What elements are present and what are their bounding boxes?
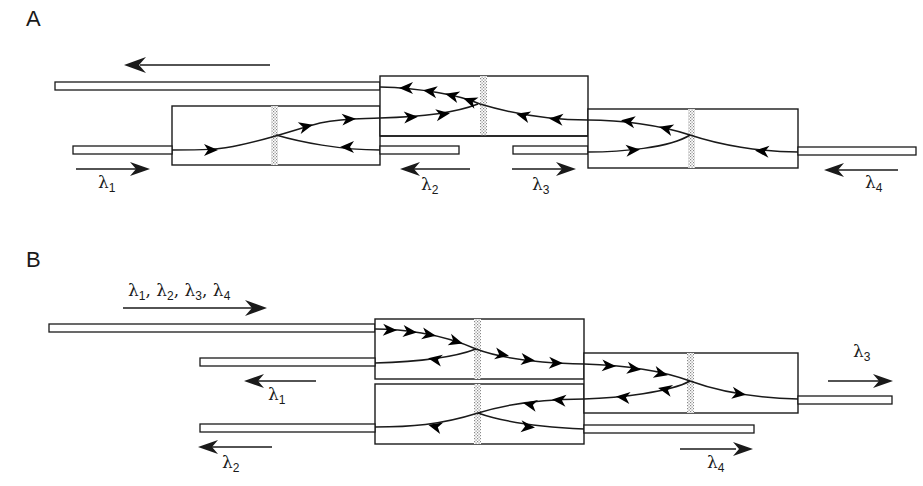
- output-fiber-l3: [798, 396, 892, 404]
- input-fiber-l4: [798, 147, 916, 155]
- label-a-lambda4: λ4: [865, 172, 882, 195]
- label-a-lambda1: λ1: [98, 172, 115, 195]
- grating-b3: [687, 353, 694, 413]
- output-fiber-l4: [584, 425, 754, 433]
- diagram-canvas: [0, 0, 923, 486]
- panel-label-b: B: [26, 247, 41, 273]
- input-fiber-l1: [73, 146, 172, 154]
- input-fiber-l3: [513, 146, 588, 154]
- panel-a: [55, 57, 916, 177]
- grating-3: [688, 109, 695, 168]
- panel-label-a: A: [26, 6, 41, 32]
- output-direction-arrow: [124, 57, 270, 73]
- label-b-lambda3: λ3: [853, 341, 870, 364]
- output-fiber: [55, 82, 380, 90]
- arrow-l4: [824, 163, 898, 177]
- label-b-lambda2: λ2: [222, 452, 239, 475]
- label-a-lambda2: λ2: [421, 174, 438, 197]
- input-fiber: [49, 324, 375, 332]
- arrow-b-l3: [828, 374, 893, 388]
- label-b-lambda4: λ4: [707, 452, 724, 475]
- label-b-lambda1: λ1: [268, 384, 285, 407]
- figure-stage: A B λ1 λ2 λ3 λ4 λ1, λ2, λ3, λ4 λ1 λ2 λ3 …: [0, 0, 923, 486]
- output-fiber-l2: [200, 424, 375, 432]
- panel-b: [49, 300, 893, 456]
- output-fiber-l1: [200, 358, 375, 366]
- label-b-multiplexed-input: λ1, λ2, λ3, λ4: [128, 280, 230, 303]
- input-fiber-l2: [380, 146, 459, 154]
- label-a-lambda3: λ3: [532, 174, 549, 197]
